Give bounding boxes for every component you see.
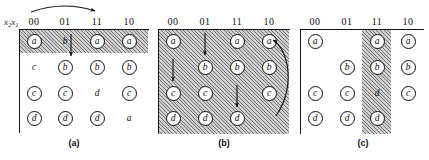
panel-b-cell-r0c1 [193,31,217,53]
panel-b-left-rule [158,29,159,134]
panel-b-token-r3c2: d [230,111,245,126]
panel-a-col-header-01: 01 [53,16,77,27]
panel-c-col-header-10: 10 [396,16,420,27]
panel-b-cell-r2c0: c [161,83,185,105]
panel-c-col-header-01: 01 [335,16,359,27]
panel-b-cell-r2c1: c [193,83,217,105]
panel-b-cell-r1c1: b [193,57,217,79]
panel-a-token-r3c2: d [90,111,105,126]
panel-a-col-header-11: 11 [85,16,109,27]
panel-b-token-r0c0: a [166,34,181,49]
panel-c-cell-r2c0: c [303,83,327,105]
panel-c-cell-r1c3: b [396,57,420,79]
panel-b-token-r1c2: b [230,60,245,75]
panel-b-token-r2c1: c [198,86,213,101]
panel-a-token-r2c2: d [90,86,105,101]
panel-c-token-r0c2: a [370,34,385,49]
panel-c-cell-r3c1: d [335,108,359,130]
panel-a-cell-r2c0: c [22,83,46,105]
panel-c-cell-r0c0: a [303,31,327,53]
panel-b-token-r1c1: b [198,60,213,75]
axis-label-x2x1: x2x1 [4,17,19,27]
panel-c-token-r1c3: b [401,60,416,75]
panel-c-cell-r3c2: d [365,108,389,130]
panel-c-token-r2c0: c [308,86,323,101]
panel-b-cell-r3c0: d [161,108,185,130]
panel-a-cell-r1c1: b [53,57,77,79]
panel-c-token-r1c1: b [340,60,355,75]
panel-c-cell-r1c1: b [335,57,359,79]
panel-a-token-r2c0: c [27,86,42,101]
panel-b-col-header-11: 11 [225,16,249,27]
panel-b-cell-r0c2: a [225,31,249,53]
panel-a-cell-r3c1: d [53,108,77,130]
panel-b-cell-r3c1: d [193,108,217,130]
panel-b-token-r2c3: c [262,86,277,101]
panel-c-cell-r3c3 [396,108,420,130]
panel-a-cell-r2c2: d [85,83,109,105]
panel-b-token-r0c3: a [262,34,277,49]
panel-c-token-r3c1: d [340,111,355,126]
panel-c-cell-r0c3: a [396,31,420,53]
panel-a-curved-arrow-00-to-11 [31,6,95,12]
panel-a-cell-r0c3: a [117,31,141,53]
panel-c-cell-r1c0 [303,57,327,79]
panel-c-cell-r1c2: b [365,57,389,79]
panel-c-left-rule [300,29,301,134]
panel-c-token-r0c3: a [401,34,416,49]
panel-c-token-r2c2: d [370,86,385,101]
panel-c-token-r2c3: c [401,86,416,101]
state-transition-figure: x2x1 00 01 11 10 a b a a c b b b c c d c… [0,0,429,160]
panel-c-token-r2c1: c [340,86,355,101]
panel-c-col-header-00: 00 [303,16,327,27]
panel-c-token-r0c0: a [308,34,323,49]
panel-c-cell-r2c1: c [335,83,359,105]
panel-a-cell-r0c2: a [85,31,109,53]
panel-a-col-header-00: 00 [22,16,46,27]
panel-c-col-header-11: 11 [365,16,389,27]
panel-b-cell-r3c2: d [225,108,249,130]
panel-c-cell-r2c3: c [396,83,420,105]
panel-a-token-r1c3: b [122,60,137,75]
panel-a-cell-r1c3: b [117,57,141,79]
panel-c-cell-r2c2: d [365,83,389,105]
panel-a-token-r3c0: d [27,111,42,126]
panel-c-cell-r0c1 [335,31,359,53]
panel-a-cell-r2c1: c [53,83,77,105]
panel-b-cell-r2c2 [225,83,249,105]
panel-b-col-header-10: 10 [257,16,281,27]
panel-a-cell-r3c3: a [117,108,141,130]
panel-c-cell-r0c2: a [365,31,389,53]
panel-c-token-r1c2: b [370,60,385,75]
panel-a-token-r2c3: c [122,86,137,101]
panel-b-col-header-01: 01 [193,16,217,27]
panel-a-token-r3c3: a [122,111,137,126]
panel-a-token-r0c3: a [122,34,137,49]
panel-b-cell-r1c2: b [225,57,249,79]
panel-b-token-r2c0: c [166,86,181,101]
panel-b-cell-r0c0: a [161,31,185,53]
panel-b-col-header-00: 00 [161,16,185,27]
panel-a-cell-r1c2: b [85,57,109,79]
panel-b-token-r3c1: d [198,111,213,126]
panel-a-cell-r0c0: a [22,31,46,53]
panel-a-token-r2c1: c [58,86,73,101]
panel-a-token-r1c2: b [90,60,105,75]
panel-a-col-header-10: 10 [117,16,141,27]
panel-b-cell-r2c3: c [257,83,281,105]
panel-a-cell-r0c1: b [53,31,77,53]
panel-b-cell-r3c3 [257,108,281,130]
panel-a-token-r1c0: c [27,60,42,75]
panel-c-token-r3c0: d [308,111,323,126]
panel-b-token-r0c2: a [230,34,245,49]
panel-c-caption: (c) [343,138,383,148]
panel-a-cell-r3c0: d [22,108,46,130]
panel-a-token-r0c1: b [58,34,73,49]
panel-a-cell-r2c3: c [117,83,141,105]
panel-a-token-r3c1: d [58,111,73,126]
panel-b-token-r3c0: d [166,111,181,126]
panel-b-cell-r1c3: b [257,57,281,79]
panel-b-cell-r0c3: a [257,31,281,53]
panel-b-token-r1c3: b [262,60,277,75]
panel-a-cell-r3c2: d [85,108,109,130]
